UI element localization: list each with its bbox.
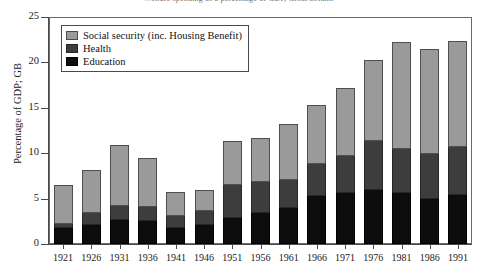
bar-segment-social[interactable]: [448, 41, 467, 147]
legend-item-health: Health: [66, 42, 242, 55]
y-tick-label: 0: [1, 238, 39, 248]
bar-segment-health[interactable]: [336, 156, 355, 193]
bar-segment-social[interactable]: [336, 88, 355, 156]
bar-segment-health[interactable]: [195, 211, 214, 225]
y-tick-label: 5: [1, 193, 39, 203]
bar-segment-education[interactable]: [54, 228, 73, 244]
x-tick-mark: [232, 244, 233, 249]
y-tick-mark: [41, 244, 49, 245]
bar-segment-education[interactable]: [448, 195, 467, 244]
legend-swatch-health-icon: [66, 44, 78, 53]
x-tick-mark: [373, 244, 374, 249]
bar-segment-health[interactable]: [251, 182, 270, 213]
y-tick-label: 25: [1, 11, 39, 21]
legend-swatch-social-icon: [66, 31, 78, 40]
y-tick-mark: [41, 17, 49, 18]
bar-segment-social[interactable]: [279, 124, 298, 179]
x-tick-mark: [289, 244, 290, 249]
bar-segment-education[interactable]: [110, 220, 129, 244]
bar-segment-social[interactable]: [307, 105, 326, 164]
bar-segment-health[interactable]: [279, 180, 298, 208]
bar-segment-social[interactable]: [392, 42, 411, 148]
bar-group[interactable]: [307, 17, 326, 244]
legend-swatch-education-icon: [66, 57, 78, 66]
legend-label-education: Education: [83, 56, 126, 67]
x-tick-label: 1976: [357, 252, 389, 263]
x-tick-mark: [176, 244, 177, 249]
bar-segment-education[interactable]: [138, 221, 157, 244]
y-tick-mark: [41, 62, 49, 63]
bar-segment-social[interactable]: [138, 158, 157, 207]
bar-segment-education[interactable]: [364, 190, 383, 244]
bar-group[interactable]: [279, 17, 298, 244]
legend: Social security (inc. Housing Benefit) H…: [61, 25, 249, 72]
bar-segment-health[interactable]: [392, 149, 411, 193]
bar-segment-health[interactable]: [54, 224, 73, 228]
legend-item-education: Education: [66, 55, 242, 68]
legend-label-health: Health: [83, 43, 111, 54]
bar-group[interactable]: [392, 17, 411, 244]
x-tick-mark: [148, 244, 149, 249]
bar-segment-education[interactable]: [223, 218, 242, 244]
bar-segment-social[interactable]: [110, 145, 129, 206]
y-tick-mark: [41, 153, 49, 154]
bar-segment-social[interactable]: [166, 192, 185, 216]
x-tick-mark: [317, 244, 318, 249]
bar-segment-social[interactable]: [223, 141, 242, 185]
bar-segment-education[interactable]: [251, 213, 270, 244]
bar-segment-education[interactable]: [392, 193, 411, 244]
y-tick-mark: [41, 108, 49, 109]
x-tick-label: 1961: [273, 252, 305, 263]
bar-segment-social[interactable]: [54, 185, 73, 224]
bar-segment-health[interactable]: [110, 206, 129, 221]
chart-title: Welfare spending as a percentage of GDP,…: [0, 0, 477, 3]
x-tick-mark: [120, 244, 121, 249]
x-tick-mark: [63, 244, 64, 249]
bar-segment-social[interactable]: [195, 190, 214, 212]
x-tick-label: 1951: [216, 252, 248, 263]
bar-segment-health[interactable]: [223, 185, 242, 218]
bar-group[interactable]: [336, 17, 355, 244]
bar-segment-social[interactable]: [420, 49, 439, 154]
bar-segment-health[interactable]: [82, 213, 101, 225]
bar-group[interactable]: [420, 17, 439, 244]
chart-root: Welfare spending as a percentage of GDP,…: [0, 0, 477, 277]
bar-segment-social[interactable]: [364, 60, 383, 142]
x-tick-label: 1956: [245, 252, 277, 263]
x-tick-mark: [402, 244, 403, 249]
bar-segment-education[interactable]: [279, 208, 298, 244]
bar-segment-education[interactable]: [166, 228, 185, 244]
bar-segment-health[interactable]: [364, 141, 383, 190]
bar-segment-education[interactable]: [307, 196, 326, 244]
x-tick-label: 1926: [75, 252, 107, 263]
x-tick-label: 1921: [47, 252, 79, 263]
x-tick-label: 1971: [329, 252, 361, 263]
x-tick-mark: [458, 244, 459, 249]
bar-group[interactable]: [251, 17, 270, 244]
bar-segment-health[interactable]: [138, 207, 157, 222]
x-tick-mark: [261, 244, 262, 249]
bar-segment-health[interactable]: [448, 147, 467, 195]
x-tick-mark: [204, 244, 205, 249]
bar-segment-education[interactable]: [420, 199, 439, 244]
x-tick-label: 1986: [414, 252, 446, 263]
bar-segment-health[interactable]: [420, 154, 439, 198]
bar-segment-education[interactable]: [336, 193, 355, 244]
x-tick-label: 1941: [160, 252, 192, 263]
bar-segment-health[interactable]: [166, 216, 185, 228]
bar-segment-education[interactable]: [195, 225, 214, 244]
x-tick-mark: [345, 244, 346, 249]
y-axis-title: Percentage of GDP; GB: [12, 39, 23, 189]
bar-group[interactable]: [364, 17, 383, 244]
bar-segment-health[interactable]: [307, 164, 326, 196]
legend-item-social: Social security (inc. Housing Benefit): [66, 29, 242, 42]
bar-group[interactable]: [448, 17, 467, 244]
x-tick-mark: [430, 244, 431, 249]
bar-segment-social[interactable]: [82, 170, 101, 214]
bar-segment-social[interactable]: [251, 138, 270, 182]
bar-segment-education[interactable]: [82, 225, 101, 244]
x-tick-label: 1931: [104, 252, 136, 263]
x-tick-label: 1936: [132, 252, 164, 263]
x-tick-label: 1981: [386, 252, 418, 263]
x-tick-mark: [91, 244, 92, 249]
